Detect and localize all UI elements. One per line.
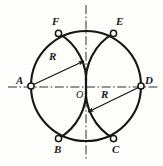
radius-label-right: R — [101, 89, 108, 100]
point-node-b — [55, 136, 61, 142]
center-label-o: O — [76, 90, 83, 100]
point-label-b: B — [54, 144, 61, 155]
point-node-f — [55, 30, 61, 36]
radius-leader-d — [88, 87, 140, 112]
radius-label-left: R — [49, 51, 56, 62]
geometric-figure: A D F E B C O R R — [0, 0, 163, 166]
construction-arc-from-a — [59, 33, 87, 138]
point-label-a: A — [16, 75, 23, 86]
construction-arc-from-d — [86, 33, 114, 138]
radius-leader-a — [33, 61, 85, 85]
point-label-d: D — [145, 75, 153, 86]
point-node-c — [110, 136, 116, 142]
point-label-e: E — [116, 16, 123, 27]
point-node-d — [138, 83, 144, 89]
point-label-f: F — [52, 16, 59, 27]
point-label-c: C — [112, 144, 119, 155]
construction-drawing — [0, 0, 163, 166]
point-node-a — [28, 83, 34, 89]
point-node-e — [110, 30, 116, 36]
